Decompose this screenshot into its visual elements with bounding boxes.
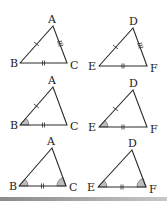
vertex-label-d: D — [129, 15, 138, 28]
triangle-abc-sss: A B C — [10, 13, 78, 72]
triangle-abc-asa: A B C — [9, 135, 77, 194]
vertex-label-c: C — [70, 59, 78, 72]
bottom-divider-bar — [0, 197, 167, 201]
vertex-label-c: C — [70, 120, 78, 133]
vertex-label-b: B — [10, 57, 18, 70]
vertex-label-a: A — [46, 135, 56, 148]
vertex-label-b: B — [9, 180, 17, 193]
vertex-label-e: E — [88, 121, 96, 134]
vertex-label-d: D — [128, 137, 137, 150]
congruent-triangles-diagram: A B C D E F A B C D E F — [0, 0, 167, 201]
vertex-label-a: A — [47, 74, 57, 87]
vertex-label-c: C — [69, 181, 77, 194]
triangle-def-sss: D E F — [88, 15, 158, 75]
vertex-label-e: E — [88, 60, 96, 73]
vertex-label-d: D — [129, 77, 138, 90]
vertex-label-a: A — [47, 13, 57, 26]
vertex-label-b: B — [10, 119, 18, 132]
vertex-label-e: E — [87, 181, 95, 194]
vertex-label-f: F — [149, 183, 157, 196]
triangle-abc-sas: A B C — [10, 74, 78, 133]
triangle-def-asa: D E F — [87, 137, 157, 196]
vertex-label-f: F — [150, 123, 158, 136]
vertex-label-f: F — [150, 62, 158, 75]
triangle-def-sas: D E F — [88, 77, 158, 136]
